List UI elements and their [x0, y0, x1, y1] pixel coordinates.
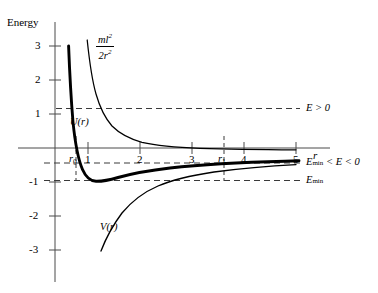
- curve-label-centrifugal-term: ml2 2r2: [96, 32, 114, 60]
- E-between-tail: < E < 0: [323, 156, 359, 167]
- y-tick-2: 2: [35, 74, 41, 85]
- E-min-sub: min: [312, 177, 323, 185]
- curve-gravitational-potential: [101, 165, 296, 251]
- centrifugal-numerator: ml2: [96, 32, 114, 45]
- x-tick-1: 1: [85, 154, 91, 165]
- energy-label-E-positive: E > 0: [306, 103, 330, 114]
- y-tick-minus-3: -3: [29, 244, 38, 255]
- centrifugal-denominator: 2r2: [96, 48, 114, 61]
- marker-label-r1: r1: [218, 154, 226, 167]
- curve-label-gravitational-potential: V(r): [100, 222, 118, 233]
- figure-canvas: Energy 3 2 1 -1 -2 -3 1 2 3 4 5 r r0 r1 …: [0, 0, 378, 293]
- marker-r1-sub: 1: [222, 158, 226, 167]
- x-tick-3: 3: [189, 154, 195, 165]
- y-tick-1: 1: [35, 108, 41, 119]
- energy-label-E-between: Emin < E < 0: [306, 157, 360, 168]
- curve-centrifugal-term: [87, 40, 296, 150]
- x-tick-5: 5: [293, 154, 299, 165]
- energy-label-E-minimum: Emin: [306, 175, 323, 186]
- y-tick-minus-2: -2: [29, 210, 38, 221]
- y-tick-3: 3: [35, 40, 41, 51]
- y-axis-label: Energy: [7, 17, 39, 28]
- marker-label-r0: r0: [69, 154, 77, 167]
- marker-r0-sub: 0: [73, 158, 77, 167]
- curve-label-effective-potential: U(r): [70, 117, 89, 128]
- y-tick-minus-1: -1: [29, 176, 38, 187]
- fraction-bar: [96, 46, 114, 47]
- x-tick-4: 4: [241, 154, 247, 165]
- E-between-sub: min: [312, 159, 323, 167]
- x-tick-2: 2: [137, 154, 143, 165]
- plot-svg: [0, 0, 378, 293]
